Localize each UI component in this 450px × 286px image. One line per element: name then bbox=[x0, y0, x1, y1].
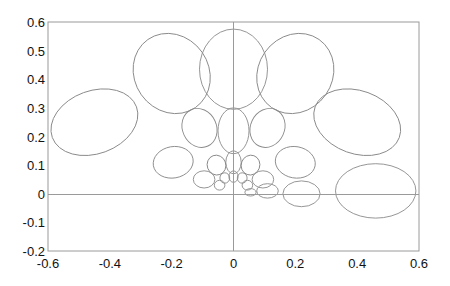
y-tick-label: 0 bbox=[38, 187, 45, 202]
x-axis-ticks: -0.6-0.4-0.200.20.40.6 bbox=[37, 256, 428, 271]
y-tick-label: 0.6 bbox=[27, 15, 45, 30]
ellipse-13 bbox=[204, 153, 228, 178]
x-tick-label: -0.6 bbox=[37, 256, 59, 271]
ellipse-15 bbox=[238, 153, 262, 178]
x-tick-label: -0.2 bbox=[160, 256, 182, 271]
ellipse-18 bbox=[214, 180, 225, 190]
x-tick-label: 0.4 bbox=[348, 256, 366, 271]
y-tick-label: 0.5 bbox=[27, 44, 45, 59]
ellipse-layer bbox=[42, 18, 416, 218]
ellipse-4 bbox=[304, 77, 410, 167]
y-tick-label: 0.1 bbox=[27, 158, 45, 173]
ellipse-10 bbox=[273, 143, 318, 181]
y-axis-ticks: -0.2-0.100.10.20.30.40.50.6 bbox=[23, 15, 45, 259]
x-tick-label: 0 bbox=[230, 256, 237, 271]
y-tick-label: 0.3 bbox=[27, 101, 45, 116]
y-tick-label: -0.1 bbox=[23, 215, 45, 230]
ellipse-1 bbox=[118, 18, 226, 129]
x-tick-label: -0.4 bbox=[99, 256, 121, 271]
ellipse-7 bbox=[176, 103, 224, 154]
ellipse-9 bbox=[244, 103, 292, 154]
ellipse-11 bbox=[283, 181, 320, 207]
x-tick-label: 0.2 bbox=[286, 256, 304, 271]
ellipse-19 bbox=[220, 173, 230, 183]
ellipse-5 bbox=[336, 164, 416, 218]
ellipse-6 bbox=[151, 143, 196, 181]
ellipse-0 bbox=[42, 77, 148, 167]
y-tick-label: 0.4 bbox=[27, 72, 45, 87]
ellipse-chart: -0.2-0.100.10.20.30.40.50.6 -0.6-0.4-0.2… bbox=[0, 0, 450, 286]
ellipse-16 bbox=[252, 171, 274, 188]
x-tick-label: 0.6 bbox=[410, 256, 428, 271]
ellipse-21 bbox=[237, 173, 247, 183]
ellipse-17 bbox=[257, 184, 279, 198]
y-tick-label: 0.2 bbox=[27, 130, 45, 145]
ellipse-3 bbox=[241, 18, 349, 129]
